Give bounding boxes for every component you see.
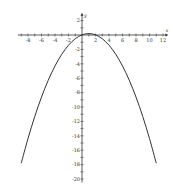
x-tick-label: -8 <box>26 37 31 43</box>
tick-labels: -8-6-4-2246810122-2-4-6-8-10-12-14-16-18… <box>26 17 167 181</box>
x-tick-label: 8 <box>134 37 137 43</box>
y-tick-label: -6 <box>75 75 80 81</box>
y-tick-label: -4 <box>75 61 80 67</box>
y-tick-label: -20 <box>72 176 80 182</box>
y-tick-label: 2 <box>77 17 80 23</box>
x-tick-label: -2 <box>66 37 71 43</box>
x-tick-label: 4 <box>107 37 110 43</box>
y-tick-label: -2 <box>75 46 80 52</box>
x-tick-label: 2 <box>94 37 97 43</box>
y-tick-label: -18 <box>72 161 80 167</box>
x-tick-label: 12 <box>160 37 166 43</box>
x-tick-label: -6 <box>39 37 44 43</box>
y-tick-label: -12 <box>72 118 80 124</box>
series-line-parabola <box>21 34 156 164</box>
x-tick-label: 6 <box>121 37 124 43</box>
series <box>21 34 156 164</box>
ticks <box>21 21 163 179</box>
y-axis-label: y <box>83 12 87 19</box>
parabola-chart: x y -8-6-4-2246810122-2-4-6-8-10-12-14-1… <box>0 0 173 195</box>
x-tick-label: 10 <box>146 37 152 43</box>
x-axis-label: x <box>165 27 168 33</box>
y-tick-label: -10 <box>72 104 80 110</box>
y-tick-label: -14 <box>72 133 80 139</box>
y-tick-label: -16 <box>72 147 80 153</box>
y-tick-label: -8 <box>75 89 80 95</box>
x-tick-label: -4 <box>53 37 58 43</box>
